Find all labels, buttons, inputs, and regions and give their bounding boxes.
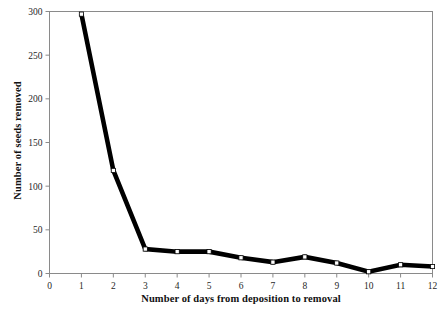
- x-tick-label: 9: [334, 281, 339, 291]
- chart-figure: Number of seeds removed Number of days f…: [0, 0, 441, 315]
- y-tick-label: 0: [38, 269, 43, 279]
- x-tick-label: 8: [302, 281, 307, 291]
- y-tick-label: 100: [28, 182, 43, 192]
- y-tick-label: 50: [33, 225, 43, 235]
- y-tick-label: 300: [28, 7, 43, 17]
- x-tick-label: 4: [175, 281, 180, 291]
- x-axis-ticks: 0123456789101112: [47, 274, 437, 291]
- x-tick-label: 1: [79, 281, 84, 291]
- x-tick-label: 0: [47, 281, 52, 291]
- x-tick-label: 12: [428, 281, 438, 291]
- line-chart-plot: 050100150200250300 0123456789101112: [0, 0, 441, 315]
- y-axis-ticks: 050100150200250300: [28, 7, 49, 279]
- x-tick-label: 11: [396, 281, 405, 291]
- y-tick-label: 250: [28, 51, 43, 61]
- x-tick-label: 3: [143, 281, 148, 291]
- y-tick-label: 200: [28, 94, 43, 104]
- x-tick-label: 2: [111, 281, 116, 291]
- x-tick-label: 5: [207, 281, 212, 291]
- x-tick-label: 7: [271, 281, 276, 291]
- x-tick-label: 10: [364, 281, 374, 291]
- x-tick-label: 6: [239, 281, 244, 291]
- y-tick-label: 150: [28, 138, 43, 148]
